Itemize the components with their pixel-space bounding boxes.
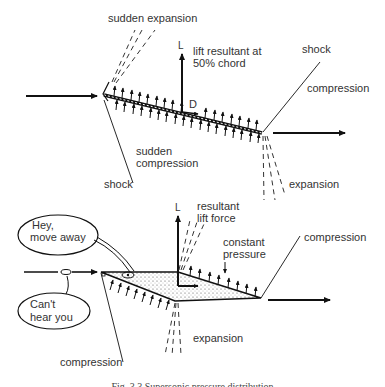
label-shock-left: shock bbox=[104, 178, 133, 190]
supersonic-airfoil-figure: sudden expansion L lift resultant at 50%… bbox=[0, 0, 385, 387]
label-lift-force: lift force bbox=[197, 212, 236, 224]
label-50-chord: 50% chord bbox=[193, 57, 246, 69]
bubble-text-hear-you: hear you bbox=[30, 311, 73, 323]
label-compression-right-top: compression bbox=[307, 82, 369, 94]
flat-plate-diagram bbox=[26, 30, 345, 200]
label-shock-right: shock bbox=[302, 43, 331, 55]
label-lift-L-bottom: L bbox=[175, 202, 181, 214]
bubble-text-hey: Hey, bbox=[32, 219, 54, 231]
label-compression-bottom: compression bbox=[60, 356, 122, 368]
small-fish-icon bbox=[61, 270, 71, 275]
label-sudden-compression-2: compression bbox=[136, 157, 198, 169]
label-expansion-top: expansion bbox=[289, 178, 339, 190]
label-drag-D-top: D bbox=[189, 98, 197, 110]
bubble-text-move-away: move away bbox=[30, 231, 86, 243]
label-lift-L-top: L bbox=[178, 40, 184, 52]
label-lift-resultant: lift resultant at bbox=[193, 45, 261, 57]
label-pressure: pressure bbox=[223, 248, 266, 260]
label-constant: constant bbox=[223, 236, 265, 248]
label-expansion-bottom: expansion bbox=[193, 332, 243, 344]
label-compression-right-bottom: compression bbox=[304, 231, 366, 243]
label-resultant: resultant bbox=[197, 200, 239, 212]
bubble-text-cant: Can't bbox=[30, 298, 55, 310]
label-sudden-compression-1: sudden bbox=[136, 145, 172, 157]
figure-caption: Fig. 3.3 Supersonic pressure distributio… bbox=[0, 378, 385, 387]
label-sudden-expansion: sudden expansion bbox=[108, 12, 197, 24]
